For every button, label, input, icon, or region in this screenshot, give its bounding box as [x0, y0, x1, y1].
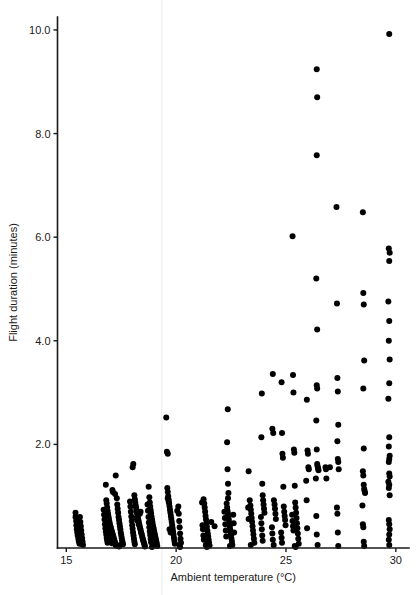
data-point — [80, 542, 86, 548]
data-point — [335, 389, 341, 395]
data-point — [314, 447, 320, 453]
data-point — [327, 464, 333, 470]
data-point — [313, 418, 319, 424]
data-point — [314, 66, 320, 72]
y-tick-label: 10.0 — [29, 24, 50, 36]
data-point — [138, 509, 144, 515]
data-point — [290, 527, 296, 533]
data-point — [246, 516, 252, 522]
data-point — [270, 371, 276, 377]
data-point — [101, 507, 107, 513]
data-point — [290, 390, 296, 396]
data-point — [230, 512, 236, 518]
data-point — [291, 450, 297, 456]
data-point — [146, 494, 152, 500]
data-point — [386, 443, 392, 449]
data-point — [165, 451, 171, 457]
data-point — [177, 524, 183, 530]
data-point — [132, 541, 138, 547]
data-point — [222, 515, 228, 521]
scatter-plot-figure: 2.04.06.08.010.0 15202530 Ambient temper… — [0, 0, 416, 595]
data-point — [258, 520, 264, 526]
data-point — [336, 466, 342, 472]
data-point — [225, 495, 231, 501]
x-axis-title: Ambient temperature (°C) — [171, 571, 296, 583]
data-point — [360, 524, 366, 530]
data-point — [103, 482, 109, 488]
data-point — [334, 505, 340, 511]
data-point — [204, 544, 210, 550]
data-point — [314, 152, 320, 158]
data-point — [224, 439, 230, 445]
data-point — [231, 520, 237, 526]
data-point — [386, 31, 392, 37]
data-point — [77, 514, 83, 520]
data-point — [127, 498, 133, 504]
data-point — [306, 466, 312, 472]
data-point — [386, 434, 392, 440]
data-point — [314, 326, 320, 332]
data-point — [334, 511, 340, 517]
data-point — [315, 467, 321, 473]
data-point — [305, 451, 311, 457]
data-point — [386, 542, 392, 548]
data-point — [292, 483, 298, 489]
data-point — [314, 385, 320, 391]
data-point — [113, 472, 119, 478]
data-point — [314, 532, 320, 538]
data-point — [109, 540, 115, 546]
data-point — [334, 438, 340, 444]
data-point — [335, 529, 341, 535]
data-point — [386, 532, 392, 538]
data-point — [279, 535, 285, 541]
data-point — [145, 501, 151, 507]
data-point — [258, 514, 264, 520]
plot-canvas: 2.04.06.08.010.0 15202530 Ambient temper… — [0, 0, 416, 595]
data-point — [259, 391, 265, 397]
data-point — [361, 357, 367, 363]
data-point — [176, 518, 182, 524]
data-point — [221, 509, 227, 515]
data-point — [222, 521, 228, 527]
data-point — [145, 514, 151, 520]
data-point — [386, 485, 392, 491]
data-point — [289, 512, 295, 518]
data-point — [359, 503, 365, 509]
data-point — [360, 385, 366, 391]
data-point — [323, 476, 329, 482]
data-point — [279, 540, 285, 546]
data-point — [334, 300, 340, 306]
data-point — [387, 356, 393, 362]
data-point — [223, 527, 229, 533]
data-point — [106, 528, 112, 534]
data-point — [335, 459, 341, 465]
data-point — [225, 490, 231, 496]
data-point — [387, 250, 393, 256]
data-point — [259, 533, 265, 539]
data-point — [130, 464, 136, 470]
data-point — [177, 530, 183, 536]
data-point — [281, 504, 287, 510]
data-point — [386, 258, 392, 264]
data-point — [279, 430, 285, 436]
data-point — [270, 537, 276, 543]
data-point — [200, 526, 206, 532]
data-point — [272, 511, 278, 517]
data-point — [282, 517, 288, 523]
data-point — [245, 505, 251, 511]
data-point — [290, 372, 296, 378]
data-point — [290, 233, 296, 239]
x-axis-ticks: 15202530 — [60, 548, 402, 566]
data-point — [385, 396, 391, 402]
data-point — [361, 302, 367, 308]
data-point — [386, 521, 392, 527]
data-point — [361, 446, 367, 452]
data-point — [334, 375, 340, 381]
data-point — [247, 497, 253, 503]
data-point — [293, 544, 299, 550]
data-point — [387, 526, 393, 532]
x-tick-label: 15 — [60, 554, 72, 566]
data-point — [163, 414, 169, 420]
data-point — [225, 406, 231, 412]
data-point — [177, 544, 183, 550]
